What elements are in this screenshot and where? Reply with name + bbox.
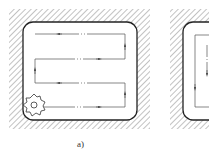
pocket-boundary-b xyxy=(183,22,209,120)
panel-a-label: a) xyxy=(77,139,84,149)
diagram-canvas xyxy=(0,0,209,156)
panel-a xyxy=(9,9,150,129)
panel-b xyxy=(170,9,209,129)
